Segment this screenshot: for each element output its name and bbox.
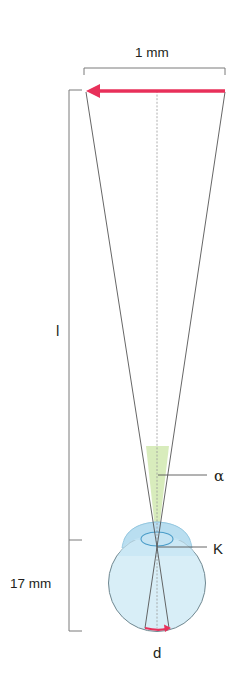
viewing-distance-label: l xyxy=(56,323,59,338)
object-width-bracket xyxy=(84,68,225,75)
object-arrow xyxy=(86,84,225,98)
retinal-image-label: d xyxy=(153,645,161,660)
visual-angle-diagram xyxy=(0,0,244,696)
visual-angle-label: α xyxy=(214,469,224,484)
eye-length-label: 17 mm xyxy=(10,577,51,591)
eye-length-bracket xyxy=(69,540,82,631)
nodal-point-label: K xyxy=(213,541,223,556)
arrow-head-left-icon xyxy=(86,84,100,98)
distance-bracket xyxy=(69,90,82,540)
ray-left xyxy=(86,92,157,547)
object-width-label: 1 mm xyxy=(135,46,169,60)
